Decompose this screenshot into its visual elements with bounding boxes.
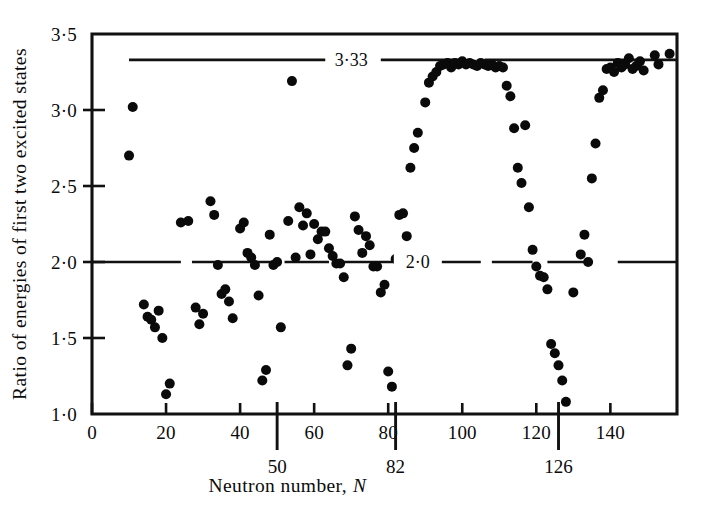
data-point [387, 382, 397, 392]
data-point [579, 230, 589, 240]
data-point [650, 50, 660, 60]
data-point [157, 333, 167, 343]
data-point [380, 280, 390, 290]
figure-container: 0204060801001201401·01·52·02·53·03·5 508… [0, 0, 709, 511]
data-point [624, 53, 634, 63]
data-point [372, 262, 382, 272]
y-tick-label-1-5: 1·5 [51, 328, 77, 349]
data-point [261, 365, 271, 375]
data-point [398, 208, 408, 218]
data-point [509, 123, 519, 133]
data-point [598, 85, 608, 95]
data-point [124, 151, 134, 161]
data-point [591, 138, 601, 148]
y-axis-title: Ratio of energies of first two excited s… [9, 48, 30, 400]
data-point [239, 217, 249, 227]
data-point [272, 257, 282, 267]
data-point [576, 249, 586, 259]
data-point [531, 262, 541, 272]
data-point [405, 163, 415, 173]
data-point [339, 272, 349, 282]
data-point [209, 210, 219, 220]
data-point [546, 339, 556, 349]
data-point [183, 216, 193, 226]
data-point [539, 272, 549, 282]
x-tick-label-140: 140 [596, 422, 625, 443]
x-tick-label-120: 120 [522, 422, 551, 443]
data-point [309, 219, 319, 229]
data-point [139, 300, 149, 310]
data-point [342, 360, 352, 370]
scatter-plot-ratio-vs-neutron-number: 0204060801001201401·01·52·02·53·03·5 508… [0, 0, 709, 511]
data-point [320, 227, 330, 237]
data-point [402, 231, 412, 241]
y-tick-label-2-0: 2·0 [51, 252, 77, 273]
data-point [357, 248, 367, 258]
magic-number-label-126: 126 [544, 456, 573, 477]
reference-line-label-3-33: 3·33 [335, 50, 368, 70]
data-point [635, 56, 645, 66]
data-point [228, 313, 238, 323]
data-point [194, 319, 204, 329]
data-point [276, 322, 286, 332]
reference-line-label-2-0: 2·0 [406, 252, 430, 272]
data-point [361, 231, 371, 241]
data-point [283, 216, 293, 226]
x-tick-label-20: 20 [156, 422, 175, 443]
data-point [213, 260, 223, 270]
magic-number-label-82: 82 [386, 456, 405, 477]
data-point [254, 290, 264, 300]
data-point [502, 81, 512, 91]
data-point [298, 221, 308, 231]
x-tick-label-40: 40 [230, 422, 249, 443]
data-point [305, 249, 315, 259]
data-point [154, 306, 164, 316]
data-point [583, 257, 593, 267]
data-point [220, 284, 230, 294]
x-tick-label-60: 60 [304, 422, 323, 443]
x-axis-title-symbol: N [352, 475, 367, 496]
data-point [557, 376, 567, 386]
data-point [561, 397, 571, 407]
data-point [335, 259, 345, 269]
data-point [287, 76, 297, 86]
data-point [516, 178, 526, 188]
data-point [365, 240, 375, 250]
data-point [587, 173, 597, 183]
x-axis-title: Neutron number, [209, 475, 347, 496]
data-point [520, 120, 530, 130]
data-point [409, 143, 419, 153]
data-point [639, 65, 649, 75]
data-point [505, 91, 515, 101]
x-tick-label-100: 100 [448, 422, 477, 443]
data-point [265, 230, 275, 240]
magic-number-label-50: 50 [268, 456, 287, 477]
data-point [346, 344, 356, 354]
data-point [498, 62, 508, 72]
data-point [165, 379, 175, 389]
y-tick-label-2-5: 2·5 [51, 176, 77, 197]
data-point [291, 252, 301, 262]
data-point [257, 376, 267, 386]
data-point [550, 348, 560, 358]
data-point [420, 97, 430, 107]
data-point [350, 211, 360, 221]
y-tick-label-3-0: 3·0 [51, 100, 77, 121]
data-point [413, 128, 423, 138]
data-point [524, 202, 534, 212]
data-point [528, 245, 538, 255]
y-tick-label-3-5: 3·5 [51, 24, 77, 45]
data-point [302, 208, 312, 218]
data-point [150, 322, 160, 332]
data-point [205, 196, 215, 206]
data-point [513, 163, 523, 173]
data-point [542, 284, 552, 294]
data-point [198, 309, 208, 319]
x-tick-label-0: 0 [87, 422, 97, 443]
data-point [224, 297, 234, 307]
data-point [128, 102, 138, 112]
data-point [568, 287, 578, 297]
data-point [653, 59, 663, 69]
data-point [665, 49, 675, 59]
y-tick-label-1-0: 1·0 [51, 404, 77, 425]
